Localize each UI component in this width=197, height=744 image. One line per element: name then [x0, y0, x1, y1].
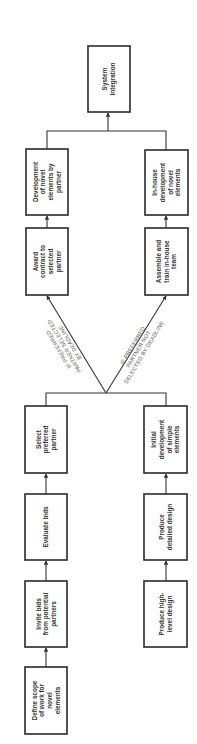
node-label-line: Invite bids [35, 598, 42, 630]
node-label-line: of novel [39, 170, 46, 195]
node-label-line: elements [173, 425, 180, 453]
node-label-line: elements [174, 168, 181, 196]
node-label-line: detailed design [166, 504, 174, 551]
merge-bracket [46, 393, 166, 406]
node-label-line: Select [35, 429, 42, 449]
node-label-line: partner [50, 428, 58, 451]
node-define-scope: Define scopeof work fornovelelements [25, 667, 67, 734]
node-invite-bids: Invite bidsfrom potentialpartners [25, 581, 67, 647]
node-assemble-team: Assemble andtrain in-houseteam [145, 228, 188, 295]
node-label-line: Produce [158, 514, 165, 540]
flowchart-diagram: Define scopeof work fornovelelementsInvi… [0, 0, 197, 744]
node-initial-dev: Initialdevelopmentof simpleelements [144, 406, 187, 473]
node-label-line: level design [166, 596, 174, 633]
condition-cond-not-selected: IF PREFERREDPARTNER NOTSELECTED BY DEADL… [112, 313, 166, 385]
node-label: Produce high-level design [158, 593, 174, 636]
node-label-line: elements [54, 686, 61, 714]
node-label-line: partners [50, 601, 58, 627]
node-inhouse-dev: In-housedevelopmentof novelelements [145, 150, 188, 215]
node-system-integration: SystemIntegration [88, 46, 130, 112]
nodes: Define scopeof work fornovelelementsInvi… [25, 46, 188, 734]
node-label-line: Initial [150, 431, 157, 448]
node-label-line: train in-house [163, 240, 170, 283]
node-dev-by-partner: Developmentof novelelements bypartner [26, 149, 68, 215]
node-label-line: of work for [38, 683, 45, 717]
node-label-line: partner [55, 250, 63, 273]
node-label-line: Integration [109, 62, 117, 95]
node-award-contract: Awardcontract toselectedpartner [26, 228, 68, 295]
node-label-line: Assemble and [155, 240, 162, 283]
node-label-line: Evaluate bids [42, 506, 49, 548]
condition-labels: IF PREFERREDPARTNER SELECTEDBY DEADLINEI… [40, 313, 165, 385]
node-label: Evaluate bids [42, 506, 49, 548]
node-label-line: partner [55, 170, 63, 193]
node-label-line: team [170, 254, 177, 269]
node-label-line: selected [47, 249, 54, 275]
node-label-line: Award [32, 252, 39, 272]
node-evaluate-bids: Evaluate bids [25, 494, 67, 560]
node-label-line: of novel [167, 170, 174, 195]
node-select-partner: Selectpreferredpartner [25, 406, 67, 473]
node-high-level-design: Produce high-level design [144, 581, 187, 647]
node-label-line: In-house [151, 169, 158, 196]
node-label-line: contract to [39, 245, 46, 278]
integration-bracket [47, 131, 166, 150]
node-label-line: novel [46, 692, 53, 709]
node-detailed-design: Producedetailed design [144, 494, 187, 560]
